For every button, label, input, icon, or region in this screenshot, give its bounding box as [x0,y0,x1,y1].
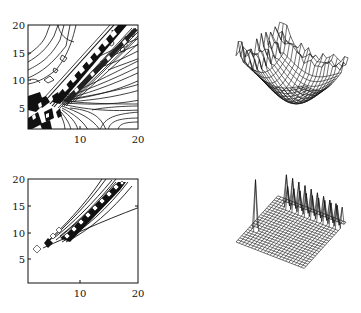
wireframe-mesh [236,22,348,104]
y-tick-label: 5 [19,254,25,265]
y-tick-label: 10 [12,75,25,86]
y-tick-label: 20 [12,174,25,185]
x-tick-label: 20 [132,288,145,299]
contour-diamond-chain [33,181,126,253]
y-tick-label: 10 [12,228,25,239]
y-tick-label: 15 [12,48,25,59]
plot-frame [28,179,138,283]
y-tick-label: 5 [19,103,25,114]
contour-dense-band [28,25,138,129]
surface-plot-top [236,22,348,104]
x-tick-label: 20 [132,134,145,145]
y-tick-label: 15 [12,201,25,212]
wireframe-mesh [236,175,346,269]
y-tick-label: 20 [12,20,25,31]
figure-canvas: 20 15 10 5 10 20 [0,0,361,313]
contour-plot-bottom [28,179,140,283]
contour-plot-top [28,25,140,130]
x-tick-label: 10 [74,288,87,299]
x-tick-label: 10 [74,134,87,145]
surface-plot-bottom [236,175,346,269]
